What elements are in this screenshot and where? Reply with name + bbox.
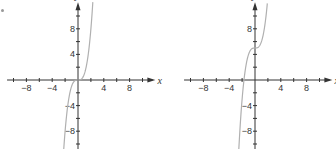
graph-left-svg: −8−44884−4−8xy xyxy=(0,0,168,149)
y-tick-label: −8 xyxy=(242,126,252,136)
x-tick-label: −8 xyxy=(198,83,208,93)
x-tick-label: −4 xyxy=(47,83,57,93)
y-axis-label: y xyxy=(74,0,80,1)
graph-right-svg: −8−4488−4−8xy xyxy=(168,0,336,149)
y-tick-label: 8 xyxy=(70,24,75,34)
x-tick-label: 4 xyxy=(101,83,106,93)
x-axis-arrow-icon xyxy=(147,78,155,83)
x-tick-label: −4 xyxy=(224,83,234,93)
y-axis-label: y xyxy=(251,0,257,1)
y-axis-arrow-icon xyxy=(76,2,81,10)
x-axis-label: x xyxy=(156,75,162,86)
x-tick-label: 8 xyxy=(127,83,132,93)
graph-right-cubic-shifted: −8−4488−4−8xy xyxy=(168,0,336,149)
y-axis-arrow-icon xyxy=(253,2,258,10)
y-tick-label: −4 xyxy=(242,101,252,111)
y-tick-label: −8 xyxy=(65,126,75,136)
graph-left-cubic: −8−44884−4−8xy xyxy=(0,0,168,149)
x-tick-label: 4 xyxy=(278,83,283,93)
x-axis-arrow-icon xyxy=(324,78,332,83)
y-tick-label: 8 xyxy=(247,24,252,34)
x-tick-label: −8 xyxy=(21,83,31,93)
x-tick-label: 8 xyxy=(304,83,309,93)
y-tick-label: −4 xyxy=(65,101,75,111)
y-tick-label: 4 xyxy=(70,49,75,59)
